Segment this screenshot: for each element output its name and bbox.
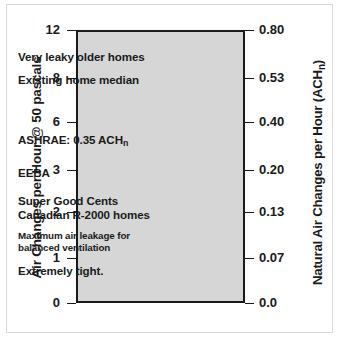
left-tick-mark-3: [67, 170, 76, 171]
left-tick-mark-0: [67, 303, 76, 304]
annotation-eeba: EEBA: [18, 166, 50, 180]
right-tick-label-053: 0.53: [259, 71, 284, 84]
right-tick-mark-040: [245, 122, 254, 123]
annotation-super-good-cents-canadian-r2000: Super Good Cents Canadian R-2000 homes: [18, 194, 150, 221]
right-tick-mark-053: [245, 78, 254, 79]
right-tick-label-013: 0.13: [259, 205, 284, 218]
annotation-ashrae-text: ASHRAE: 0.35 ACH: [18, 133, 123, 146]
air-changes-per-hour-chart: Air Changes per Hour @ 50 pascals Natura…: [0, 0, 339, 337]
plot-area: [76, 30, 245, 303]
left-tick-label-6: 6: [14, 115, 60, 128]
right-tick-mark-080: [245, 30, 254, 31]
left-tick-mark-1: [67, 258, 76, 259]
annotation-ashrae-subscript: n: [123, 138, 128, 148]
right-tick-mark-00: [245, 303, 254, 304]
annotation-extremely-tight: Extremely tight.: [18, 264, 103, 278]
right-tick-mark-013: [245, 212, 254, 213]
left-tick-mark-12: [67, 30, 76, 31]
right-axis-title: Natural Air Changes per Hour (ACHn): [310, 23, 325, 323]
right-tick-label-020: 0.20: [259, 163, 284, 176]
right-tick-label-040: 0.40: [259, 115, 284, 128]
left-tick-label-12: 12: [14, 23, 60, 36]
left-tick-mark-6: [67, 122, 76, 123]
right-axis-title-subscript: n: [315, 64, 326, 70]
right-tick-label-00: 0.0: [259, 296, 277, 309]
right-tick-mark-007: [245, 258, 254, 259]
annotation-existing-home-median: Existing home median: [18, 73, 139, 87]
right-axis-title-prefix: Natural Air Changes per Hour (ACH: [310, 70, 325, 285]
annotation-maximum-air-leakage-balanced-ventilation: Maximum air leakage for balanced ventila…: [18, 230, 130, 253]
right-tick-label-007: 0.07: [259, 251, 284, 264]
annotation-ashrae-035-achn: ASHRAE: 0.35 ACHn: [18, 133, 128, 147]
annotation-very-leaky-older-homes: Very leaky older homes: [18, 50, 145, 64]
left-tick-label-0: 0: [14, 296, 60, 309]
right-tick-label-080: 0.80: [259, 23, 284, 36]
right-tick-mark-020: [245, 170, 254, 171]
